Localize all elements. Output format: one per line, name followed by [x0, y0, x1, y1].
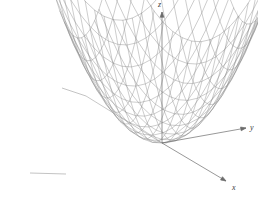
axes-back-group	[30, 88, 86, 174]
paraboloid-wireframe-svg	[0, 0, 258, 197]
z-axis-label: z	[158, 1, 161, 9]
y-axis-label: y	[250, 124, 254, 132]
x-axis-label: x	[232, 184, 236, 192]
surface-plot-figure: z y x	[0, 0, 258, 197]
paraboloid-mesh	[38, 0, 258, 143]
